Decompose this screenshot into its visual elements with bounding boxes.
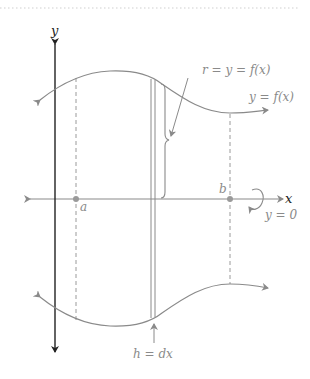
point-b-label: b (219, 182, 227, 196)
upper-curve (40, 71, 268, 113)
point-a-label: a (80, 200, 87, 214)
height-label: h = dx (133, 347, 173, 361)
radius-pointer-arrow (171, 78, 188, 136)
radius-label: r = y = f(x) (202, 63, 271, 77)
curve-label: y = f(x) (248, 90, 294, 104)
lower-curve (40, 284, 268, 326)
point-b-dot (227, 196, 233, 202)
disc-method-diagram: y x a b r = y = f(x) y = f(x) h = dx y =… (0, 0, 310, 379)
radius-brace (161, 84, 169, 198)
point-a-dot (73, 196, 79, 202)
x-axis-label: x (285, 191, 293, 206)
y-axis-label: y (50, 23, 59, 38)
rotation-axis-label: y = 0 (264, 208, 297, 222)
